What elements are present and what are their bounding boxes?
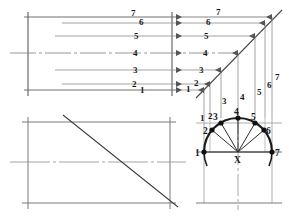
projector-label-7: 7 (275, 72, 280, 82)
plan-ordinate-label-2: 2 (208, 111, 213, 121)
development-label-1: 1 (140, 85, 145, 95)
projection-label-2: 2 (194, 78, 199, 88)
plan-ordinate-label-1: 1 (200, 113, 205, 123)
elevation-diagonal (63, 115, 178, 207)
development-label-4: 4 (133, 48, 138, 58)
plan-label-6: 6 (266, 126, 271, 136)
plan-radius-6 (238, 130, 264, 152)
projector-label-6: 6 (267, 80, 272, 90)
projection-label-3: 3 (199, 65, 204, 75)
projection-label-6: 6 (206, 17, 211, 27)
plan-radius-3 (212, 130, 238, 152)
development-label-5: 5 (134, 31, 139, 41)
technical-drawing-svg: 7 6 5 4 3 2 1 7 6 5 4 3 2 1 3 (0, 0, 289, 222)
plan-label-1: 1 (195, 148, 200, 158)
plan-point-1 (201, 149, 206, 154)
plan-radius-2 (221, 123, 238, 152)
development-label-3: 3 (133, 65, 138, 75)
projection-label-4: 4 (203, 48, 208, 58)
projector-label-5: 5 (257, 87, 262, 97)
plan-point-2 (209, 127, 214, 132)
drawing-sheet: 7 6 5 4 3 2 1 7 6 5 4 3 2 1 3 (0, 0, 289, 222)
plan-point-3 (218, 120, 223, 125)
projection-label-1: 1 (186, 84, 191, 94)
plan-label-4: 4 (234, 107, 239, 117)
plan-view: 1 2 3 4 5 6 7 1 2 X (195, 107, 282, 210)
development-label-6: 6 (139, 17, 144, 27)
plan-label-2: 2 (203, 126, 208, 136)
plan-label-3: 3 (213, 112, 218, 122)
projection-view: 7 6 5 4 3 2 1 3 4 5 6 7 (176, 7, 282, 118)
plan-center-label: X (234, 155, 241, 165)
projector-label-3: 3 (222, 96, 227, 106)
projector-label-4: 4 (240, 92, 245, 102)
projection-label-7: 7 (216, 7, 221, 17)
development-label-2: 2 (132, 79, 137, 89)
elevation-view (10, 115, 186, 209)
projection-label-5: 5 (204, 31, 209, 41)
plan-radius-5 (238, 123, 255, 152)
plan-point-7 (269, 149, 274, 154)
plan-label-5: 5 (251, 112, 256, 122)
development-label-7: 7 (131, 8, 136, 18)
plan-label-7: 7 (275, 148, 280, 158)
development-view: 7 6 5 4 3 2 1 (10, 8, 176, 96)
